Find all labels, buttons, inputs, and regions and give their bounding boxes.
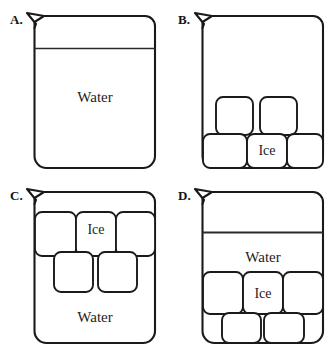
panel-d-water-label: Water — [167, 250, 334, 265]
panel-a-water-label: Water — [0, 90, 190, 105]
panel-c-ice-label: Ice — [76, 222, 116, 237]
panel-b-ice-label: Ice — [247, 143, 287, 158]
ice-cube — [116, 212, 155, 256]
panel-d: D. Water Ice — [167, 176, 334, 351]
ice-cube — [216, 97, 253, 135]
ice-cube — [283, 272, 323, 314]
ice-cube — [287, 134, 323, 168]
panel-c: C. Ice Water — [0, 176, 167, 351]
ice-cube — [222, 313, 261, 343]
panel-a: A. Water — [0, 0, 167, 176]
ice-cube — [98, 252, 137, 292]
ice-cube — [35, 212, 76, 256]
panel-a-beaker — [0, 0, 167, 176]
panel-c-water-label: Water — [0, 310, 190, 325]
ice-cube — [54, 252, 93, 292]
panel-d-ice-label: Ice — [243, 286, 283, 301]
ice-cube — [203, 134, 247, 168]
ice-cube — [264, 313, 304, 343]
ice-cube — [203, 272, 243, 314]
panel-b: B. Ice — [167, 0, 334, 176]
beaker-ice-water-figure: A. Water B. Ice C. — [0, 0, 334, 351]
ice-cube — [260, 97, 297, 135]
